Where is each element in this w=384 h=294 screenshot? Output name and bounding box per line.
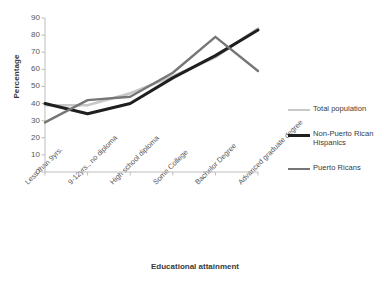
legend-label: Total population	[313, 104, 366, 114]
legend-swatch-icon	[288, 168, 310, 170]
series-line-1	[45, 30, 258, 114]
series-line-0	[45, 28, 258, 105]
legend-label: Non-Puerto Rican Hispanics	[313, 129, 384, 148]
chart-legend: Total populationNon-Puerto Rican Hispani…	[288, 104, 384, 187]
legend-swatch-icon	[288, 109, 310, 111]
legend-label: Puerto Ricans	[313, 163, 361, 173]
chart-container: Percentage Educational attainment 010203…	[0, 0, 384, 294]
legend-item: Non-Puerto Rican Hispanics	[288, 129, 384, 148]
legend-item: Total population	[288, 104, 384, 114]
legend-swatch-icon	[288, 134, 310, 137]
legend-item: Puerto Ricans	[288, 163, 384, 173]
